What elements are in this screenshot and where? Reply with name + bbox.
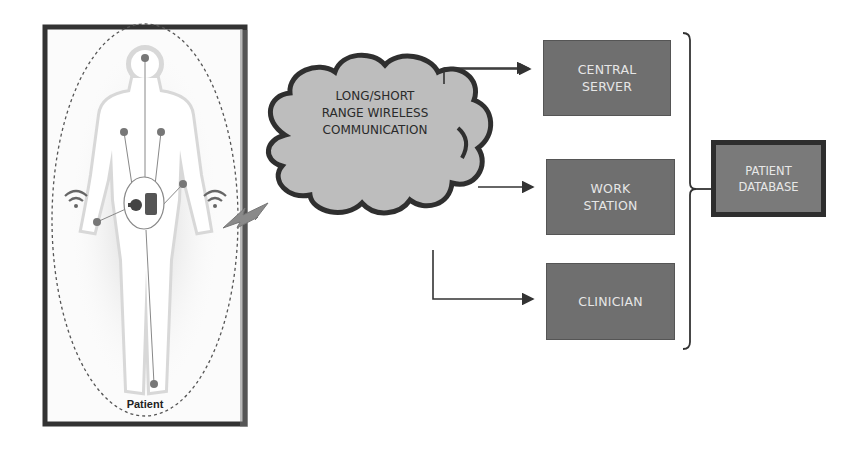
body-sensor-hub-icon — [124, 177, 164, 229]
work-station-label: WORK STATION — [583, 180, 637, 214]
patient-database-label: PATIENT DATABASE — [739, 163, 799, 195]
clinician-node: CLINICIAN — [546, 263, 675, 340]
clinician-label: CLINICIAN — [578, 293, 643, 310]
central-server-label: CENTRAL SERVER — [578, 61, 637, 95]
cloud-label: LONG/SHORT RANGE WIRELESS COMMUNICATION — [305, 88, 445, 139]
patient-panel — [45, 24, 248, 427]
central-server-node: CENTRAL SERVER — [543, 40, 671, 116]
patient-database-node: PATIENT DATABASE — [711, 140, 826, 217]
patient-label: Patient — [110, 398, 180, 410]
diagram-canvas — [0, 0, 868, 455]
bracket — [683, 33, 712, 349]
work-station-node: WORK STATION — [546, 159, 675, 235]
